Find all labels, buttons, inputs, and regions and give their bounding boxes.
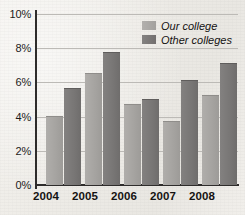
bar-other-colleges-2008 (220, 63, 237, 185)
legend-swatch-icon-other-colleges (142, 35, 156, 44)
bar-our-college-2006 (124, 104, 141, 185)
legend-entry-our-college: Our college (142, 19, 232, 32)
gridline-6 (37, 82, 238, 83)
y-axis-tick-label-4: 4% (0, 111, 31, 123)
legend-label-our-college: Our college (161, 20, 217, 32)
y-axis-tick-label-2: 2% (0, 145, 31, 157)
y-axis-tick-label-10: 10% (0, 8, 31, 20)
gridline-10 (37, 14, 238, 15)
bar-our-college-2004 (46, 116, 63, 185)
bar-other-colleges-2006 (142, 99, 159, 186)
y-axis-tick-label-6: 6% (0, 76, 31, 88)
bar-our-college-2007 (163, 121, 180, 185)
x-axis-tick-label-2008: 2008 (178, 190, 226, 202)
bar-other-colleges-2007 (181, 80, 198, 185)
bar-our-college-2008 (202, 95, 219, 185)
legend-swatch-icon-our-college (142, 21, 156, 30)
bar-other-colleges-2005 (103, 52, 120, 185)
chart-legend: Our college Other colleges (140, 17, 234, 49)
legend-label-other-colleges: Other colleges (161, 34, 232, 46)
bar-chart-figure: 10% 8% 6% 4% 2% 0% (0, 0, 245, 215)
y-axis-tick-label-8: 8% (0, 42, 31, 54)
bar-other-colleges-2004 (64, 88, 81, 185)
legend-entry-other-colleges: Other colleges (142, 33, 232, 46)
bar-our-college-2005 (85, 73, 102, 185)
